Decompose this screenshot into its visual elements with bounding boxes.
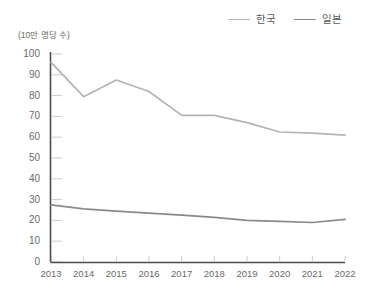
x-tick-label: 2017 xyxy=(165,269,199,279)
x-tick-label: 2018 xyxy=(197,269,231,279)
x-tick-label: 2016 xyxy=(132,269,166,279)
y-tick-label: 60 xyxy=(14,132,40,142)
y-tick-label: 50 xyxy=(14,153,40,163)
y-tick-label: 90 xyxy=(14,70,40,80)
y-tick-label: 10 xyxy=(14,236,40,246)
y-tick-label: 30 xyxy=(14,195,40,205)
series-line-japan[interactable] xyxy=(51,205,345,223)
data-series-group xyxy=(51,62,345,222)
x-tick-label: 2013 xyxy=(34,269,68,279)
x-tick-label: 2020 xyxy=(263,269,297,279)
y-axis-ticks xyxy=(52,54,62,262)
y-tick-label: 80 xyxy=(14,91,40,101)
plot-area xyxy=(0,0,366,296)
series-line-korea[interactable] xyxy=(51,62,345,135)
y-tick-label: 20 xyxy=(14,215,40,225)
line-chart: 한국 일본 (10만 명당 수) 0102030405060708090100 … xyxy=(0,0,366,296)
y-tick-label: 70 xyxy=(14,111,40,121)
y-tick-label: 100 xyxy=(14,49,40,59)
x-tick-label: 2015 xyxy=(99,269,133,279)
x-tick-label: 2022 xyxy=(328,269,362,279)
x-tick-label: 2021 xyxy=(295,269,329,279)
y-tick-label: 0 xyxy=(14,257,40,267)
y-tick-label: 40 xyxy=(14,174,40,184)
x-tick-label: 2014 xyxy=(67,269,101,279)
x-axis-ticks xyxy=(51,256,345,261)
x-tick-label: 2019 xyxy=(230,269,264,279)
